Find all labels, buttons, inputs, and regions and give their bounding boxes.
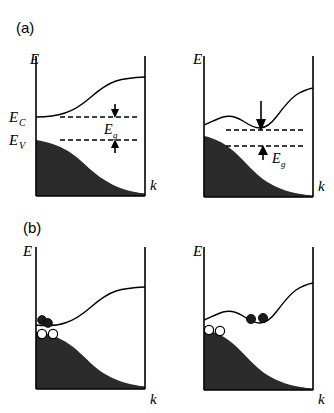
band-gap-label-sub: g — [113, 130, 118, 140]
band-gap-label-sub: g — [281, 159, 286, 169]
hole-marker — [204, 325, 213, 334]
level-label-ec-sub: C — [19, 117, 26, 128]
y-axis-label-b-right: E — [192, 243, 202, 259]
level-label-ev-main: E — [8, 132, 18, 148]
x-axis-label-b-left: k — [150, 391, 157, 407]
panel-label-b: (b) — [23, 219, 41, 236]
y-axis-label-a-left: E — [29, 51, 39, 67]
y-axis-label-b-left: E — [22, 243, 32, 259]
level-label-ec-main: E — [8, 109, 18, 125]
hole-marker — [37, 329, 46, 338]
band-structure-figure: (a) E E C E V E g — [0, 0, 334, 413]
electron-marker — [246, 314, 255, 323]
y-axis-label-a-right: E — [192, 51, 202, 67]
band-gap-label-main: E — [103, 122, 113, 137]
electron-marker — [44, 319, 53, 328]
hole-marker — [48, 329, 57, 338]
x-axis-label-b-right: k — [318, 391, 325, 407]
band-gap-label-main: E — [271, 151, 281, 166]
hole-marker — [215, 326, 224, 335]
panel-label-a: (a) — [16, 19, 34, 36]
x-axis-label-a-right: k — [318, 178, 325, 194]
electron-marker — [258, 313, 267, 322]
x-axis-label-a-left: k — [150, 177, 157, 193]
